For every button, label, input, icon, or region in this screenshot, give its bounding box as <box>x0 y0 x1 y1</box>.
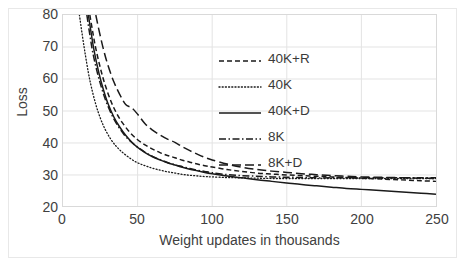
legend-item-8k[interactable]: 8K <box>218 124 350 150</box>
chart-container: Loss 20304050607080 050100150200250 Weig… <box>0 0 465 272</box>
x-axis-ticks: 050100150200250 <box>62 212 437 230</box>
y-axis-ticks: 20304050607080 <box>0 14 58 207</box>
x-tick-label: 0 <box>32 212 92 226</box>
y-tick-label: 70 <box>4 39 58 53</box>
legend-label: 8K+D <box>268 156 302 170</box>
y-tick-label: 50 <box>4 104 58 118</box>
x-tick-label: 150 <box>257 212 317 226</box>
legend-item-40k-d[interactable]: 40K+D <box>218 98 350 124</box>
x-tick-label: 250 <box>407 212 465 226</box>
legend-label: 40K+D <box>268 104 310 118</box>
legend-item-40k-r[interactable]: 40K+R <box>218 46 350 72</box>
legend-label: 40K <box>268 78 292 92</box>
legend-item-8k-d[interactable]: 8K+D <box>218 150 350 176</box>
legend-label: 8K <box>268 130 285 144</box>
y-tick-label: 60 <box>4 71 58 85</box>
x-tick-label: 50 <box>107 212 167 226</box>
y-tick-label: 80 <box>4 7 58 21</box>
chart-legend: 40K+R40K40K+D8K8K+D <box>218 46 350 176</box>
legend-line-swatch <box>218 79 262 91</box>
y-tick-label: 40 <box>4 136 58 150</box>
y-tick-label: 30 <box>4 168 58 182</box>
legend-line-swatch <box>218 131 262 143</box>
x-axis-title: Weight updates in thousands <box>62 232 437 248</box>
legend-line-swatch <box>218 105 262 117</box>
legend-line-swatch <box>218 157 262 169</box>
legend-line-swatch <box>218 53 262 65</box>
x-tick-label: 200 <box>332 212 392 226</box>
x-tick-label: 100 <box>182 212 242 226</box>
legend-label: 40K+R <box>268 52 310 66</box>
legend-item-40k[interactable]: 40K <box>218 72 350 98</box>
